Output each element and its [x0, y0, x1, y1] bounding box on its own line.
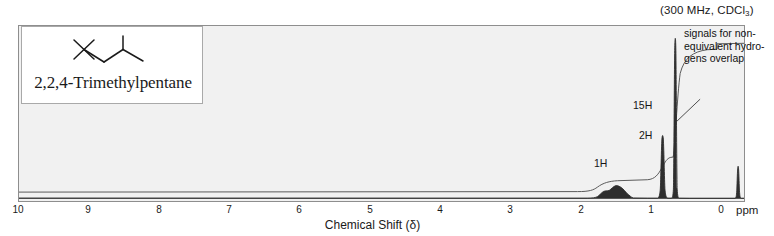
- axis-tick-7: 7: [226, 204, 232, 215]
- molecule-name-label: 2,2,4-Trimethylpentane: [22, 73, 204, 93]
- axis-tick-1: 1: [648, 204, 654, 215]
- axis-tick-9: 9: [85, 204, 91, 215]
- molecule-card: 2,2,4-Trimethylpentane: [21, 26, 203, 104]
- overlap-annotation-line1: signals for non-: [684, 27, 762, 40]
- axis-tick-10: 10: [12, 204, 23, 215]
- axis-tick-3: 3: [507, 204, 513, 215]
- peak-label-2h: 2H: [639, 129, 652, 141]
- peak-label-1h: 1H: [594, 157, 607, 169]
- overlap-annotation: signals for non- equivalent hydro- gens …: [684, 27, 762, 65]
- overlap-annotation-line3: gens overlap: [684, 52, 762, 65]
- conditions-tail: ): [750, 4, 754, 16]
- axis-tick-2: 2: [578, 204, 584, 215]
- bond-c3-c4: [104, 50, 123, 63]
- bond-c2-c3: [84, 50, 104, 63]
- conditions-text: (300 MHz, CDCl: [660, 4, 745, 16]
- axis-tick-0: 0: [718, 204, 724, 215]
- peak-label-15h: 15H: [633, 99, 652, 111]
- spectrometer-conditions: (300 MHz, CDCl3): [660, 4, 754, 18]
- axis-tick-6: 6: [296, 204, 302, 215]
- x-axis: 10 9 8 7 6 5 4 3 2 1 0 ppm Chemical Shif…: [0, 202, 774, 236]
- axis-tick-5: 5: [367, 204, 373, 215]
- axis-title-label: Chemical Shift (δ): [0, 218, 745, 232]
- axis-unit-label: ppm: [736, 204, 758, 216]
- axis-tick-8: 8: [156, 204, 162, 215]
- skeletal-structure-icon: [22, 29, 204, 75]
- axis-tick-4: 4: [437, 204, 443, 215]
- bond-c4-c5: [123, 50, 143, 62]
- spectrum-plot-area: 2,2,4-Trimethylpentane 1H 2H 15H: [18, 25, 745, 202]
- nmr-spectrum-figure: (300 MHz, CDCl3) 2,2,4-Trimethylpentane: [0, 0, 774, 236]
- overlap-annotation-line2: equivalent hydro-: [684, 40, 762, 53]
